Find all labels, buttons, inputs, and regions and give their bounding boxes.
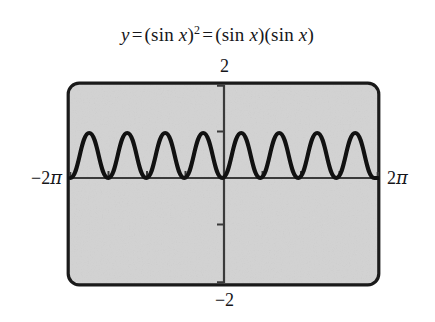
title-equals-first: = bbox=[130, 24, 145, 45]
title-term3-close-paren: ) bbox=[307, 24, 314, 45]
title-term2-function: sin bbox=[222, 24, 245, 45]
x-axis-max-value: 2 bbox=[387, 168, 396, 188]
title-equals-second: = bbox=[200, 24, 215, 45]
x-axis-min-label: −2π bbox=[12, 169, 62, 187]
plot-area bbox=[66, 81, 381, 287]
y-axis-min-value: −2 bbox=[215, 290, 234, 310]
x-axis-min-pi-symbol: π bbox=[50, 167, 62, 188]
x-axis-max-pi-symbol: π bbox=[396, 167, 408, 188]
title-lhs-variable: y bbox=[121, 24, 130, 45]
y-axis-min-label: −2 bbox=[0, 291, 435, 309]
y-axis-max-value: 2 bbox=[220, 56, 229, 76]
title-term2-argument: x bbox=[249, 24, 258, 45]
x-axis-max-label: 2π bbox=[387, 169, 408, 187]
figure-container: y=(sin x)2=(sin x)(sin x) 2 −2 −2π 2π bbox=[0, 0, 435, 322]
x-axis-min-value: −2 bbox=[31, 168, 50, 188]
title-term1-function: sin bbox=[151, 24, 174, 45]
y-axis-max-label: 2 bbox=[0, 57, 435, 75]
chart-title: y=(sin x)2=(sin x)(sin x) bbox=[0, 24, 435, 46]
title-term3-function: sin bbox=[271, 24, 294, 45]
